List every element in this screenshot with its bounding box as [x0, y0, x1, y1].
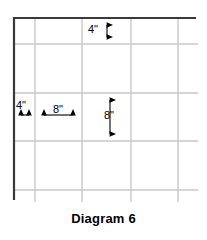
dimension-label-width-8in: 8" — [53, 104, 63, 115]
diagram-screenshot: 4" 4" 8" 8" Diagram 6 — [0, 0, 207, 240]
dimension-label-height-8in: 8" — [104, 110, 114, 121]
diagram-caption: Diagram 6 — [0, 211, 207, 226]
dimension-label-left-4in: 4" — [16, 100, 26, 111]
diagram-drawing — [0, 0, 207, 205]
diagram-canvas: 4" 4" 8" 8" — [0, 0, 207, 205]
dimension-label-top-4in: 4" — [88, 24, 98, 35]
